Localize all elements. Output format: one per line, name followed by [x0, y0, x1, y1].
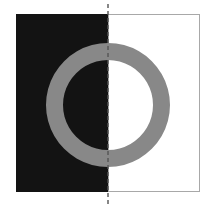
symmetry-figure-svg — [0, 0, 211, 212]
figure-canvas — [0, 0, 211, 212]
